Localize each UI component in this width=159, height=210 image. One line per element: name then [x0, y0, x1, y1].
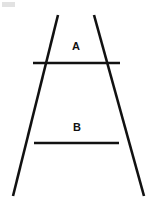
label-b: B: [73, 122, 81, 133]
label-a: A: [72, 41, 80, 52]
figure-canvas: A B: [0, 0, 159, 210]
right-diagonal-line: [94, 15, 144, 196]
geometry-diagram: [0, 0, 159, 210]
left-diagonal-line: [13, 15, 58, 196]
